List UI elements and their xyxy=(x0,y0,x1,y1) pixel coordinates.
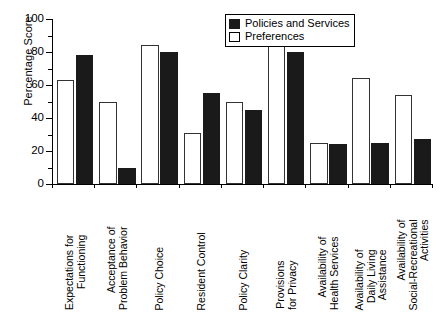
bar-policies-and-services xyxy=(160,52,178,184)
bar-preferences xyxy=(57,80,75,184)
y-axis-line xyxy=(52,19,53,185)
y-tick-minor xyxy=(48,69,52,70)
bar-policies-and-services xyxy=(371,143,389,184)
y-tick-label: 80 xyxy=(2,46,44,58)
bar-preferences xyxy=(310,143,328,184)
legend-item: Policies and Services xyxy=(229,17,350,30)
y-tick-minor xyxy=(48,135,52,136)
x-axis-label: Acceptance ofProblem Behavior xyxy=(106,227,129,310)
bar-policies-and-services xyxy=(76,55,94,184)
bar-preferences xyxy=(395,95,413,184)
bar-policies-and-services xyxy=(287,52,305,184)
y-tick-minor xyxy=(48,168,52,169)
legend-item: Preferences xyxy=(229,30,350,43)
x-axis-line xyxy=(52,184,433,185)
x-label-slot: Provisionsfor Privacy xyxy=(265,188,307,310)
x-axis-label: Expectations forFunctioning xyxy=(64,235,87,310)
y-tick-major xyxy=(46,151,52,152)
x-label-slot: Policy Clarity xyxy=(223,188,265,310)
x-axis-label: Policy Clarity xyxy=(238,249,250,310)
legend-label: Preferences xyxy=(245,31,304,42)
bar-policies-and-services xyxy=(203,93,221,184)
y-tick-label: 20 xyxy=(2,145,44,157)
legend-swatch-icon xyxy=(229,19,240,29)
x-label-slot: Availability ofHealth Services xyxy=(307,188,349,310)
x-label-slot: Acceptance ofProblem Behavior xyxy=(96,188,138,310)
x-axis-label: Availability ofSocial-RecreationalActivi… xyxy=(396,219,431,310)
x-label-slot: Resident Control xyxy=(181,188,223,310)
y-tick-minor xyxy=(48,102,52,103)
y-tick-label: 40 xyxy=(2,112,44,124)
bar-preferences xyxy=(99,102,117,185)
bar-preferences xyxy=(226,102,244,185)
bar-preferences xyxy=(268,36,286,185)
x-label-slot: Expectations forFunctioning xyxy=(54,188,96,310)
bar-preferences xyxy=(352,78,370,184)
bar-policies-and-services xyxy=(245,110,263,184)
chart-legend: Policies and ServicesPreferences xyxy=(225,14,355,47)
x-label-slot: Availability ofSocial-RecreationalActivi… xyxy=(392,188,434,310)
bar-policies-and-services xyxy=(329,144,347,184)
y-tick-major xyxy=(46,85,52,86)
y-tick-label: 100 xyxy=(2,13,44,25)
x-label-slot: Policy Choice xyxy=(138,188,180,310)
bar-preferences xyxy=(184,133,202,184)
y-tick-major xyxy=(46,19,52,20)
y-axis-tick-labels: 020406080100 xyxy=(0,0,44,313)
x-label-slot: Availability ofDaily LivingAssistance xyxy=(350,188,392,310)
x-axis-label: Resident Control xyxy=(196,232,208,310)
y-tick-label: 60 xyxy=(2,79,44,91)
legend-label: Policies and Services xyxy=(245,18,350,29)
bar-chart: Percentage Score 020406080100 Policies a… xyxy=(0,0,441,313)
x-axis-label: Policy Choice xyxy=(154,246,166,310)
x-axis-label: Availability ofHealth Services xyxy=(317,236,340,310)
x-axis-label: Provisionsfor Privacy xyxy=(275,260,298,310)
x-axis-label: Availability ofDaily LivingAssistance xyxy=(353,249,388,310)
y-tick-major xyxy=(46,118,52,119)
legend-swatch-icon xyxy=(229,32,240,42)
bar-policies-and-services xyxy=(118,168,136,185)
y-tick-major xyxy=(46,52,52,53)
y-tick-minor xyxy=(48,36,52,37)
y-tick-label: 0 xyxy=(2,178,44,190)
bar-preferences xyxy=(141,45,159,184)
bar-policies-and-services xyxy=(414,139,432,184)
x-axis-category-labels: Expectations forFunctioningAcceptance of… xyxy=(52,188,433,313)
